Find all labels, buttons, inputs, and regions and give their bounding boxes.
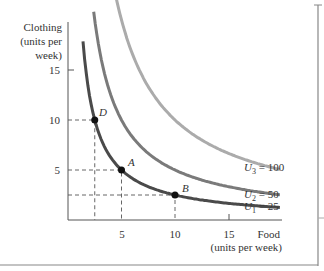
x-axis-label-line-2: (units per week): [211, 241, 283, 254]
point-label-b: B: [182, 182, 189, 194]
y-tick-label-15: 15: [49, 64, 61, 76]
point-label-a: A: [127, 156, 135, 168]
legend-u3: U3 = 100: [244, 161, 285, 176]
point-label-d: D: [98, 106, 107, 118]
point-d: [91, 117, 98, 124]
y-tick-label-5: 5: [55, 164, 61, 176]
point-b: [172, 192, 179, 199]
y-axis-label-line-3: week): [35, 49, 62, 62]
y-tick-label-10: 10: [49, 114, 61, 126]
y-axis-label-line-2: (units per: [20, 35, 62, 48]
x-tick-label-10: 10: [170, 228, 182, 240]
x-axis-label-line-1: Food: [257, 228, 280, 240]
indifference-curve-chart: Clothing (units per week) Food (units pe…: [0, 0, 324, 271]
x-tick-label-15: 15: [224, 228, 236, 240]
y-axis-label-line-1: Clothing: [23, 21, 62, 33]
x-tick-label-5: 5: [119, 228, 125, 240]
point-a: [118, 167, 125, 174]
legend-u1: U1 = 25: [244, 200, 279, 215]
